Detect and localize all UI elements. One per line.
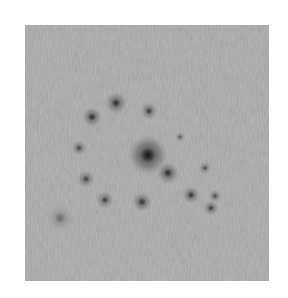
diffraction-spot bbox=[88, 113, 97, 122]
diffraction-spot bbox=[178, 135, 183, 140]
diffraction-spot bbox=[138, 198, 147, 207]
diffraction-pattern bbox=[25, 25, 269, 281]
central-spot bbox=[139, 146, 157, 164]
diffraction-spot bbox=[145, 107, 153, 115]
diffraction-spot bbox=[208, 205, 215, 212]
diffraction-spot bbox=[212, 193, 218, 199]
diffraction-spot bbox=[101, 196, 109, 204]
diffraction-spot bbox=[187, 191, 195, 199]
diffraction-spot bbox=[82, 175, 90, 183]
diffraction-spot bbox=[163, 168, 173, 178]
diffraction-spot bbox=[76, 145, 83, 152]
diffraction-spot bbox=[202, 165, 208, 171]
diffraction-image bbox=[25, 25, 269, 281]
streaky-cluster bbox=[54, 212, 66, 224]
diffraction-spot bbox=[111, 98, 121, 108]
